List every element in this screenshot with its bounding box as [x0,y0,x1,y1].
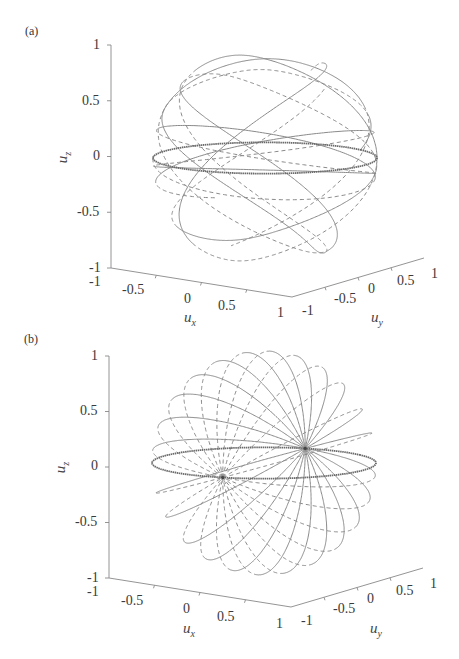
y-tick-label: -1 [302,304,314,318]
z-tick-label: -1 [87,571,99,585]
x-tick-label: -0.5 [121,594,143,608]
y-axis-title: uy [370,620,382,639]
y-tick-label: -0.5 [334,292,356,306]
y-tick-label: 0.5 [397,274,415,288]
x-axis-title: ux [184,309,196,328]
z-tick-label: 0.5 [82,94,100,108]
x-tick-label: 0 [184,292,191,306]
z-axis-title: uz [52,462,71,473]
y-axis-title-text: u [371,309,379,325]
x-tick-label: -1 [87,585,99,599]
node-point [221,476,224,479]
z-axis-title-text: u [52,466,68,474]
y-tick-label: 0 [368,282,375,296]
x-tick-label: 0.5 [218,299,236,313]
y-axis-title-text: u [370,620,378,636]
node-point [304,447,307,450]
x-axis-title: ux [183,620,195,639]
x-tick-label: 0.5 [217,610,235,624]
z-axis-title: uz [54,152,73,163]
y-tick-label: -0.5 [333,602,355,616]
x-axis-title-sub: x [191,628,195,639]
y-tick-label: 1 [430,577,437,591]
x-tick-label: -1 [89,275,101,289]
panel-tag: (a) [25,24,38,39]
z-tick-label: -0.5 [77,205,99,219]
panel-a: (a) 1 0.5 0 -0.5 -1 -1 -0.5 0 0.5 1 -1 -… [0,0,459,330]
z-axis-title-sub: z [60,462,71,466]
x-tick-label: 1 [277,306,284,320]
z-tick-label: 1 [93,38,100,52]
z-axis-title-text: u [54,156,70,164]
x-axis-title-text: u [184,309,192,325]
x-tick-label: 1 [276,617,283,631]
y-axis-title-sub: y [379,317,383,328]
z-tick-label: 0 [91,459,98,473]
x-axis-title-sub: x [192,317,196,328]
x-tick-label: -0.5 [122,283,144,297]
z-tick-label: 0 [93,149,100,163]
z-tick-label: 0.5 [80,404,98,418]
panel-b: (b) 1 0.5 0 -0.5 -1 -1 -0.5 0 0.5 1 -1 -… [0,330,459,659]
x-axis-title-text: u [183,620,191,636]
y-tick-label: 0 [367,592,374,606]
y-tick-label: 1 [431,267,438,281]
y-tick-label: 0.5 [396,584,414,598]
z-axis-title-sub: z [62,152,73,156]
sphere-plot-a [0,0,459,330]
panel-tag: (b) [24,332,38,347]
z-tick-label: 1 [91,349,98,363]
z-tick-label: -0.5 [75,515,97,529]
y-axis-title-sub: y [378,628,382,639]
x-tick-label: 0 [183,602,190,616]
y-tick-label: -1 [301,614,313,628]
y-axis-title: uy [371,309,383,328]
z-tick-label: -1 [89,261,101,275]
